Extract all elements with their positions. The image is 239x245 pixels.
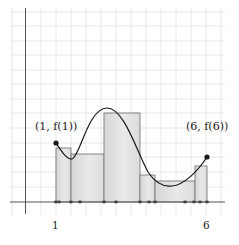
end-point: [204, 154, 209, 159]
rectangle-2: [71, 154, 104, 202]
riemann-rectangles: [56, 113, 207, 202]
rectangle-6: [195, 166, 207, 202]
tick-label-1: 1: [52, 219, 59, 231]
start-point: [53, 140, 58, 145]
rectangle-1: [56, 148, 71, 202]
riemann-sum-diagram: (1, f(1)) (6, f(6)) 1 6: [0, 0, 239, 245]
tick-label-6: 6: [203, 219, 210, 231]
rectangle-3: [104, 113, 140, 202]
start-point-label: (1, f(1)): [35, 120, 77, 133]
end-point-label: (6, f(6)): [186, 120, 228, 133]
rectangle-4: [140, 175, 155, 202]
